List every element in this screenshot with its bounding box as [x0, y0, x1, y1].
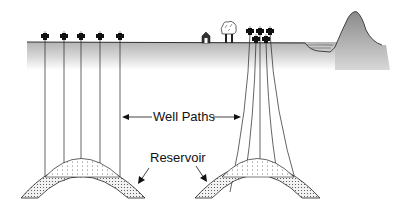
wellhead-icon [41, 31, 49, 40]
house-icon [202, 32, 210, 43]
left-reservoir [21, 159, 145, 199]
well-paths-callout: Well Paths [122, 109, 241, 124]
trees-icon [221, 21, 236, 43]
wellhead-icon [246, 26, 254, 35]
right-reservoir [195, 159, 320, 199]
wellhead-icon [116, 31, 124, 40]
reservoir-label: Reservoir [150, 150, 206, 165]
well-paths-diagram: Well Paths Reservoir [0, 0, 409, 215]
wellhead-icon [266, 26, 274, 35]
wellhead-icon [262, 34, 270, 43]
wellhead-icon [60, 31, 68, 40]
reservoir-callout: Reservoir [138, 150, 207, 184]
wellhead-icon [96, 31, 104, 40]
wellhead-icon [252, 34, 260, 43]
wellhead-icon [77, 31, 85, 40]
wellhead-icon [256, 26, 264, 35]
well-paths-label: Well Paths [153, 109, 215, 124]
